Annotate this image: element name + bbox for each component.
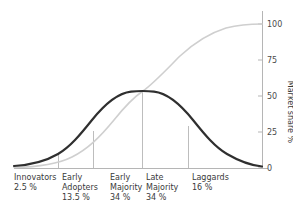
segment-laggards-percent: 16 % xyxy=(192,183,229,193)
segment-early-adopters-percent: 13.5 % xyxy=(62,193,98,203)
segment-innovators-percent: 2.5 % xyxy=(14,183,57,193)
segment-laggards-name: Laggards xyxy=(192,173,229,183)
y-tick-label-50: 50 xyxy=(267,92,277,101)
y-tick-label-75: 75 xyxy=(267,56,277,65)
segment-label-early-majority: Early Majority 34 % xyxy=(110,173,142,203)
segment-early-majority-name-1: Early xyxy=(110,173,142,183)
segment-label-late-majority: Late Majority 34 % xyxy=(146,173,178,203)
segment-late-majority-percent: 34 % xyxy=(146,193,178,203)
segment-early-majority-percent: 34 % xyxy=(110,193,142,203)
segment-innovators-name: Innovators xyxy=(14,173,57,183)
segment-late-majority-name-2: Majority xyxy=(146,183,178,193)
bell-curve-distribution xyxy=(14,91,262,167)
segment-dividers xyxy=(59,92,189,168)
y-axis-title: Market share % xyxy=(286,81,293,144)
segment-label-laggards: Laggards 16 % xyxy=(192,173,229,193)
segment-label-innovators: Innovators 2.5 % xyxy=(14,173,57,193)
y-tick-label-100: 100 xyxy=(267,20,282,29)
y-tick-label-0: 0 xyxy=(267,164,272,173)
segment-early-adopters-name-1: Early xyxy=(62,173,98,183)
diffusion-of-innovations-chart: 100 75 50 25 0 Market share % Innovators… xyxy=(0,0,293,208)
segment-early-majority-name-2: Majority xyxy=(110,183,142,193)
segment-label-early-adopters: Early Adopters 13.5 % xyxy=(62,173,98,203)
segment-late-majority-name-1: Late xyxy=(146,173,178,183)
y-tick-label-25: 25 xyxy=(267,128,277,137)
segment-early-adopters-name-2: Adopters xyxy=(62,183,98,193)
s-curve-cumulative xyxy=(14,24,262,168)
